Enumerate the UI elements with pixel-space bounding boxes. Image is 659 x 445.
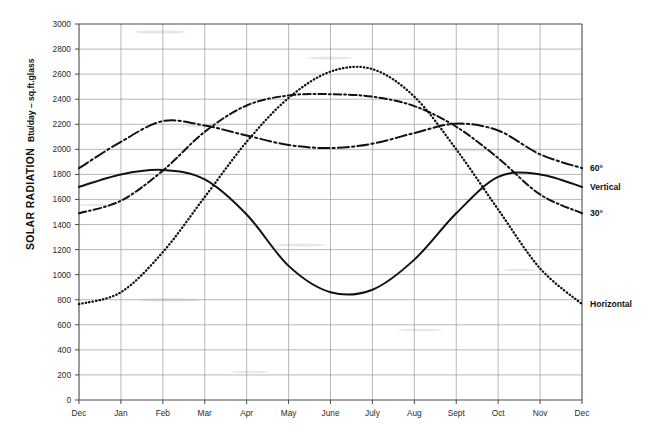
x-tick-label: May bbox=[281, 408, 298, 418]
y-tick-label: 400 bbox=[57, 345, 71, 355]
x-tick-label: Aug bbox=[407, 408, 422, 418]
x-tick-label: July bbox=[365, 408, 381, 418]
y-tick-label: 2600 bbox=[53, 69, 72, 79]
y-tick-label: 1800 bbox=[53, 169, 72, 179]
y-tick-label: 200 bbox=[57, 370, 71, 380]
y-tick-label: 1600 bbox=[53, 194, 72, 204]
y-tick-label: 2200 bbox=[53, 119, 72, 129]
y-tick-label: 600 bbox=[57, 320, 71, 330]
y-tick-label: 1000 bbox=[53, 270, 72, 280]
chart-background bbox=[0, 0, 659, 445]
x-tick-label: Apr bbox=[240, 408, 253, 418]
series-label: 60° bbox=[590, 163, 604, 173]
series-label: 30° bbox=[590, 208, 604, 218]
solar-radiation-chart: 0200400600800100012001400160018002000220… bbox=[0, 0, 659, 445]
x-tick-label: Sept bbox=[448, 408, 466, 418]
x-tick-label: Nov bbox=[533, 408, 549, 418]
y-axis-title-group: SOLAR RADIATION Btu/day – sq.ft.glass bbox=[25, 58, 36, 250]
y-tick-label: 2400 bbox=[53, 94, 72, 104]
y-tick-label: 800 bbox=[57, 295, 71, 305]
x-tick-label: Feb bbox=[156, 408, 171, 418]
x-tick-label: June bbox=[322, 408, 340, 418]
series-label: Vertical bbox=[590, 182, 621, 192]
y-tick-label: 1200 bbox=[53, 245, 72, 255]
x-tick-label: Jan bbox=[114, 408, 128, 418]
y-tick-label: 1400 bbox=[53, 220, 72, 230]
y-tick-label: 2000 bbox=[53, 144, 72, 154]
x-tick-label: Oct bbox=[492, 408, 506, 418]
y-tick-label: 3000 bbox=[53, 19, 72, 29]
x-tick-label: Dec bbox=[72, 408, 87, 418]
series-label: Horizontal bbox=[590, 299, 632, 309]
y-axis-units: Btu/day – sq.ft.glass bbox=[26, 58, 36, 142]
y-axis-title: SOLAR RADIATION bbox=[25, 148, 36, 250]
chart-svg: 0200400600800100012001400160018002000220… bbox=[0, 0, 659, 445]
y-tick-label: 2800 bbox=[53, 44, 72, 54]
x-tick-label: Dec bbox=[575, 408, 590, 418]
y-tick-label: 0 bbox=[66, 395, 71, 405]
x-tick-label: Mar bbox=[198, 408, 213, 418]
